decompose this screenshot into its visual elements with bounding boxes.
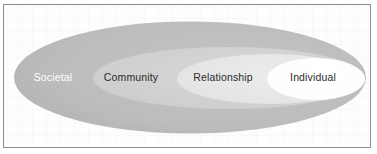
ring-label-societal: Societal	[34, 72, 73, 83]
ring-label-individual: Individual	[290, 72, 336, 83]
ring-label-community: Community	[104, 72, 158, 83]
figure-container: Societal Community Relationship Individu…	[0, 0, 377, 154]
ring-label-relationship: Relationship	[193, 72, 253, 83]
